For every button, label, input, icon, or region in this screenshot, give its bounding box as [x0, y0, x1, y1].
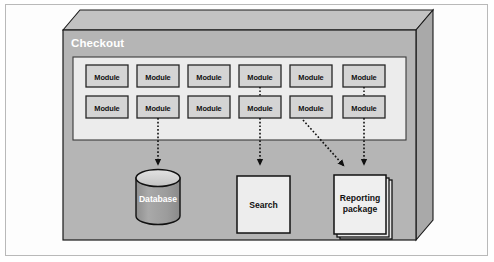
module-label: Module: [298, 73, 323, 82]
figure-root: Checkout Module Module Module Module: [0, 0, 494, 262]
module-box[interactable]: Module: [137, 65, 179, 87]
diagram-canvas: Checkout Module Module Module Module: [0, 0, 494, 262]
box-top-face: [63, 10, 433, 30]
module-box[interactable]: Module: [239, 96, 281, 118]
module-box[interactable]: Module: [290, 65, 332, 87]
module-label: Module: [145, 104, 170, 113]
module-label: Module: [298, 104, 323, 113]
database-top: [136, 170, 180, 187]
module-box[interactable]: Module: [86, 96, 128, 118]
module-box[interactable]: Module: [137, 96, 179, 118]
module-label: Module: [351, 73, 376, 82]
database-label: Database: [139, 194, 177, 204]
module-box[interactable]: Module: [188, 96, 230, 118]
reporting-package-node[interactable]: Reporting package: [334, 175, 392, 239]
search-node[interactable]: Search: [237, 176, 290, 233]
module-label: Module: [247, 104, 272, 113]
box-side-face: [416, 10, 433, 240]
module-box[interactable]: Module: [343, 65, 385, 87]
reporting-label-line-1: Reporting: [340, 193, 381, 203]
module-label: Module: [351, 104, 376, 113]
box-title: Checkout: [71, 37, 124, 49]
module-box[interactable]: Module: [343, 96, 385, 118]
module-label: Module: [196, 73, 221, 82]
module-box[interactable]: Module: [290, 96, 332, 118]
module-label: Module: [145, 73, 170, 82]
module-label: Module: [196, 104, 221, 113]
module-label: Module: [94, 104, 119, 113]
module-label: Module: [247, 73, 272, 82]
module-box[interactable]: Module: [86, 65, 128, 87]
database-node[interactable]: Database: [136, 170, 180, 225]
reporting-label-line-2: package: [343, 204, 378, 214]
module-box[interactable]: Module: [188, 65, 230, 87]
module-label: Module: [94, 73, 119, 82]
search-label: Search: [249, 200, 278, 210]
module-box[interactable]: Module: [239, 65, 281, 87]
